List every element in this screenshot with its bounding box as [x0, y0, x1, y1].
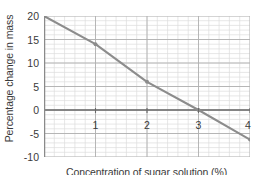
- x-tick-label: 2: [136, 120, 158, 131]
- chart-svg: [44, 16, 250, 157]
- plot-area: [44, 16, 250, 157]
- x-tick-label: 3: [188, 120, 210, 131]
- y-tick-label: -5: [13, 129, 39, 139]
- x-tick-labels: 1 2 3 4: [44, 120, 250, 134]
- y-tick-label: 5: [13, 82, 39, 92]
- y-tick-label: 20: [13, 11, 39, 21]
- x-tick-label: 4: [237, 120, 259, 131]
- x-tick-label: 1: [85, 120, 107, 131]
- chart-screenshot: Percentage change in mass 20 15 10 5 0 -…: [0, 0, 263, 175]
- y-tick-labels: 20 15 10 5 0 -5 -10: [9, 16, 39, 157]
- y-tick-label: 15: [13, 35, 39, 45]
- x-axis-title: Concentration of sugar solution (%): [44, 166, 249, 175]
- y-tick-label: -10: [13, 152, 39, 162]
- y-tick-label: 0: [13, 105, 39, 115]
- y-tick-label: 10: [13, 58, 39, 68]
